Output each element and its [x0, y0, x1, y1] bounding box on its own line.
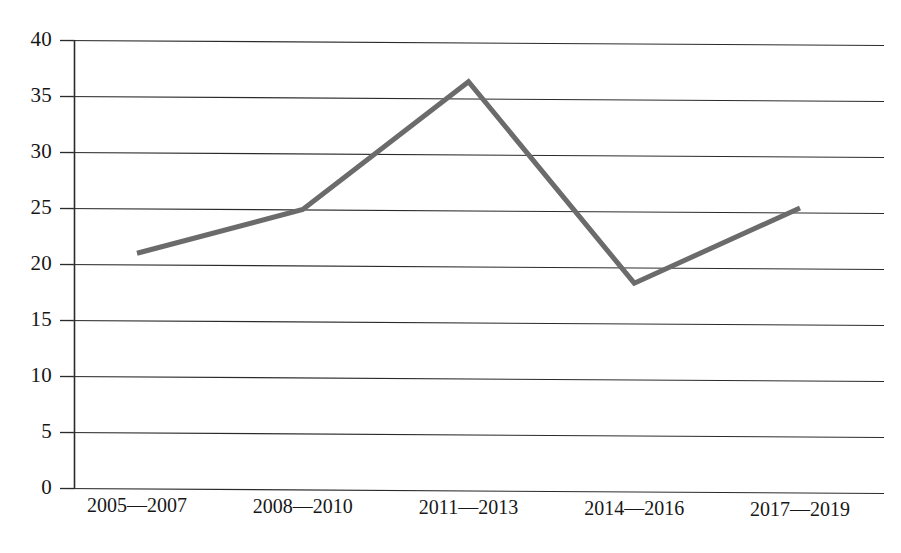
x-axis-tick-labels: 2005—20072008—20102011—20132014—20162017… [0, 492, 901, 532]
axis-tick-marks [60, 41, 75, 489]
gridline [60, 209, 884, 214]
gridline [60, 433, 884, 438]
x-tick-label: 2005—2007 [87, 494, 187, 516]
line-chart: 0510152025303540 2005—20072008—20102011—… [0, 0, 901, 553]
x-tick-label: 2017—2019 [750, 498, 850, 520]
x-tick-label: 2011—2013 [419, 496, 518, 518]
gridline [60, 265, 884, 270]
gridline [60, 97, 884, 102]
gridline [60, 377, 884, 382]
gridlines [60, 41, 884, 494]
x-tick-label: 2014—2016 [584, 497, 684, 519]
x-tick-label: 2008—2010 [253, 495, 353, 517]
gridline [60, 41, 884, 46]
gridline [60, 321, 884, 326]
data-series-line [137, 82, 800, 283]
plot-area [0, 0, 901, 553]
gridline [60, 153, 884, 158]
